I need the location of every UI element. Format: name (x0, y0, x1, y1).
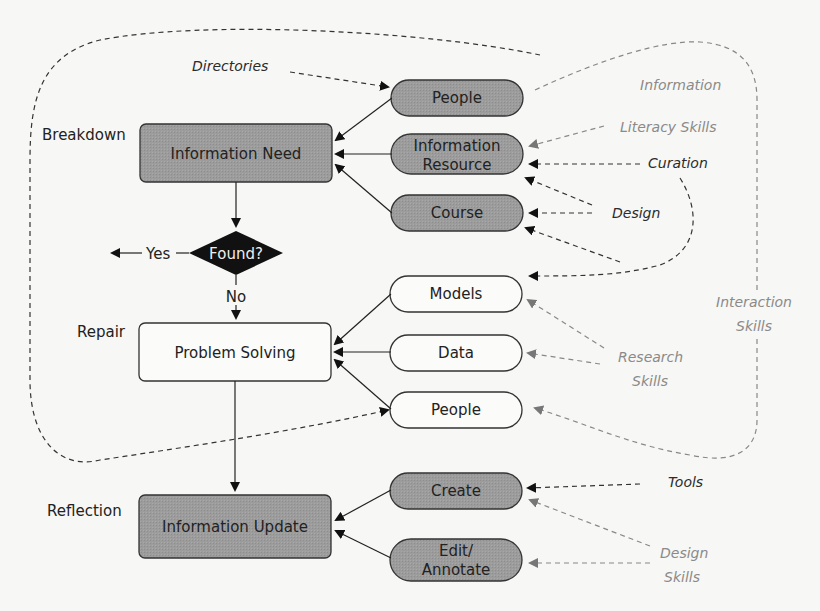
information-resource-label-2: Resource (423, 156, 492, 174)
diagram-canvas: Information Need Breakdown People Inform… (0, 0, 820, 611)
information-update-label: Information Update (162, 518, 308, 536)
edit-label-1: Edit/ (439, 542, 474, 560)
course-label: Course (431, 204, 483, 222)
people-repair-label: People (431, 401, 481, 419)
edit-label-2: Annotate (422, 561, 491, 579)
phase-reflection-label: Reflection (47, 502, 122, 520)
models-label: Models (430, 285, 483, 303)
annotation-curation: Curation (648, 155, 708, 171)
data-label: Data (438, 344, 474, 362)
phase-breakdown-label: Breakdown (42, 126, 126, 144)
problem-solving-label: Problem Solving (174, 344, 295, 362)
annotation-research: Research (618, 349, 683, 365)
yes-label: Yes (145, 245, 170, 263)
annotation-design: Design (612, 205, 660, 221)
loop-dashed-right (535, 42, 757, 458)
annotation-research-skills: Skills (632, 373, 668, 389)
annotation-directories: Directories (192, 58, 268, 74)
annotation-interaction: Interaction (716, 294, 792, 310)
annotation-tools: Tools (668, 474, 703, 490)
annotation-design-skills-2: Skills (664, 569, 700, 585)
information-need-label: Information Need (171, 145, 302, 163)
phase-repair-label: Repair (77, 323, 126, 341)
decision-label: Found? (209, 245, 263, 263)
annotation-literacy-skills: Literacy Skills (620, 119, 717, 135)
annotation-information: Information (640, 77, 721, 93)
annotation-interaction-skills: Skills (736, 318, 772, 334)
people-breakdown-label: People (432, 89, 482, 107)
annotation-design-skills-1: Design (660, 545, 708, 561)
create-label: Create (431, 482, 481, 500)
information-resource-label-1: Information (414, 137, 501, 155)
no-label: No (226, 288, 246, 306)
